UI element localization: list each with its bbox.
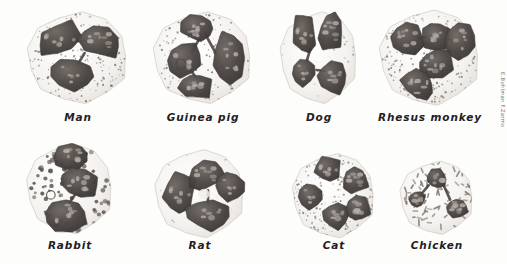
cell-illustration-rhesus-monkey (374, 6, 486, 110)
cell-illustration-chicken (396, 158, 478, 238)
cell-label-rhesus-monkey: Rhesus monkey (366, 111, 494, 123)
granulocyte-plate: E.Bohlman F.Zarmo ManGuinea pigDogRhesus… (0, 0, 507, 264)
cell-label-cat: Cat (288, 239, 380, 251)
cell-illustration-rabbit (22, 140, 118, 238)
cell-figure-chicken (396, 158, 478, 238)
cell-label-guinea-pig: Guinea pig (142, 111, 264, 123)
cell-figure-rabbit (22, 140, 118, 238)
cell-figure-man (22, 8, 134, 108)
cell-illustration-guinea-pig (148, 8, 258, 108)
cell-label-chicken: Chicken (390, 239, 484, 251)
cell-figure-dog (276, 8, 362, 108)
cell-figure-guinea-pig (148, 8, 258, 108)
cell-illustration-rat (150, 146, 250, 242)
cell-label-rat: Rat (150, 239, 250, 251)
cell-illustration-dog (276, 8, 362, 108)
cell-figure-rhesus-monkey (374, 6, 486, 110)
cell-illustration-man (22, 8, 134, 108)
cell-label-dog: Dog (276, 111, 362, 123)
cell-label-man: Man (22, 111, 134, 123)
artist-signature: E.Bohlman F.Zarmo (500, 72, 506, 127)
cell-figure-cat (288, 150, 380, 242)
cell-figure-rat (150, 146, 250, 242)
cell-label-rabbit: Rabbit (18, 239, 122, 251)
cell-illustration-cat (288, 150, 380, 242)
